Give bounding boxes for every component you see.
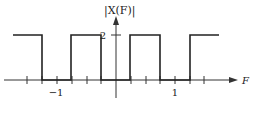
y-level-label: 2	[100, 30, 106, 41]
spectrum-plot: |X(F)| 2 F −1 1	[0, 0, 255, 113]
tick-label-neg1: −1	[49, 87, 64, 98]
y-axis-label: |X(F)|	[104, 4, 135, 18]
x-axis-arrow-icon	[229, 77, 238, 83]
y-axis-arrow-icon	[113, 16, 119, 25]
x-axis-label: F	[241, 75, 250, 86]
tick-label-pos1: 1	[172, 87, 178, 98]
